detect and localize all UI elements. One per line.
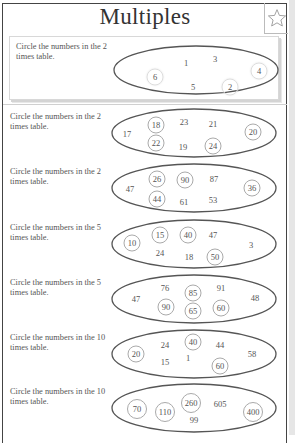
star-outline-icon bbox=[267, 8, 287, 28]
number[interactable]: 23 bbox=[180, 117, 189, 127]
number[interactable]: 58 bbox=[248, 349, 257, 359]
example-circled-number: 2 bbox=[222, 79, 239, 96]
circled-number[interactable]: 50 bbox=[207, 249, 224, 266]
question-prompt: Circle the numbers in the 10 times table… bbox=[10, 333, 120, 353]
example-circled-number: 6 bbox=[147, 69, 164, 86]
number[interactable]: 605 bbox=[214, 399, 227, 409]
question-prompt: Circle the numbers in the 10 times table… bbox=[10, 387, 120, 407]
circled-number[interactable]: 15 bbox=[152, 227, 169, 244]
number[interactable]: 3 bbox=[249, 240, 253, 250]
number-ellipse: 4726908736446153 bbox=[110, 162, 278, 214]
number[interactable]: 24 bbox=[161, 340, 170, 350]
circled-number[interactable]: 22 bbox=[148, 135, 165, 152]
example-divider bbox=[3, 104, 287, 105]
circled-number[interactable]: 70 bbox=[127, 399, 147, 419]
number[interactable]: 99 bbox=[190, 415, 199, 425]
number-ellipse: 7011026060540099 bbox=[110, 382, 278, 434]
number[interactable]: 19 bbox=[179, 142, 188, 152]
number[interactable]: 91 bbox=[217, 283, 226, 293]
circled-number[interactable]: 60 bbox=[213, 300, 230, 317]
circled-number[interactable]: 18 bbox=[148, 117, 165, 134]
number[interactable]: 47 bbox=[209, 230, 218, 240]
circled-number[interactable]: 24 bbox=[205, 138, 222, 155]
circled-number[interactable]: 85 bbox=[185, 285, 202, 302]
circled-number[interactable]: 40 bbox=[185, 334, 202, 351]
number[interactable]: 47 bbox=[126, 184, 135, 194]
circled-number[interactable]: 60 bbox=[212, 358, 229, 375]
question-prompt: Circle the numbers in the 2 times table. bbox=[10, 167, 120, 187]
circled-number[interactable]: 400 bbox=[243, 402, 263, 422]
circled-number[interactable]: 36 bbox=[244, 180, 261, 197]
page-edge bbox=[289, 0, 295, 435]
circled-number[interactable]: 26 bbox=[149, 171, 166, 188]
number-ellipse: 4776859148906560 bbox=[110, 273, 278, 325]
circled-number[interactable]: 40 bbox=[180, 227, 197, 244]
number[interactable]: 61 bbox=[180, 197, 189, 207]
example-box: Circle the numbers in the 2 times table.… bbox=[9, 36, 279, 100]
number[interactable]: 18 bbox=[185, 252, 194, 262]
number[interactable]: 47 bbox=[132, 294, 141, 304]
number[interactable]: 15 bbox=[161, 357, 170, 367]
example-number: 3 bbox=[213, 54, 217, 64]
number[interactable]: 44 bbox=[216, 340, 225, 350]
question-prompt: Circle the numbers in the 2 times table. bbox=[10, 112, 120, 132]
example-circled-number: 4 bbox=[251, 63, 268, 80]
number-ellipse: 1718232120221924 bbox=[110, 107, 278, 159]
circled-number[interactable]: 20 bbox=[128, 346, 145, 363]
number[interactable]: 1 bbox=[186, 353, 190, 363]
number[interactable]: 53 bbox=[209, 195, 218, 205]
number[interactable]: 48 bbox=[251, 293, 260, 303]
number[interactable]: 24 bbox=[156, 248, 165, 258]
question-prompt: Circle the numbers in the 5 times table. bbox=[10, 223, 120, 243]
circled-number[interactable]: 260 bbox=[181, 393, 201, 413]
circled-number[interactable]: 20 bbox=[245, 124, 262, 141]
circled-number[interactable]: 90 bbox=[177, 172, 194, 189]
circled-number[interactable]: 44 bbox=[149, 191, 166, 208]
example-number: 1 bbox=[184, 58, 188, 68]
circled-number[interactable]: 10 bbox=[124, 235, 141, 252]
circled-number[interactable]: 90 bbox=[158, 299, 175, 316]
star-box bbox=[264, 3, 288, 34]
example-number: 5 bbox=[191, 82, 195, 92]
number-ellipse: 202440445815160 bbox=[110, 328, 278, 380]
number-ellipse: 101540473241850 bbox=[110, 218, 278, 270]
number[interactable]: 76 bbox=[161, 283, 170, 293]
number[interactable]: 21 bbox=[209, 119, 218, 129]
question-prompt: Circle the numbers in the 5 times table. bbox=[10, 278, 120, 298]
page-title: Multiples bbox=[0, 4, 290, 30]
number[interactable]: 17 bbox=[123, 129, 132, 139]
example-ellipse: 136452 bbox=[113, 44, 279, 96]
example-prompt: Circle the numbers in the 2 times table. bbox=[16, 42, 126, 62]
circled-number[interactable]: 110 bbox=[155, 402, 175, 422]
circled-number[interactable]: 65 bbox=[185, 303, 202, 320]
number[interactable]: 87 bbox=[210, 174, 219, 184]
